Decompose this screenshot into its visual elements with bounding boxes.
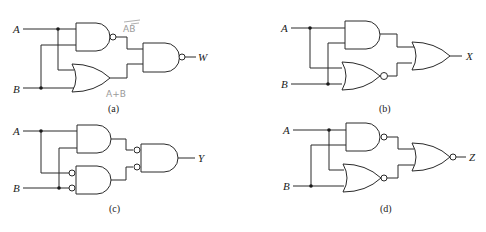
input-b-label: B: [281, 78, 288, 90]
annotation-a-not-b: AB: [123, 24, 135, 34]
caption-d: (d): [380, 203, 392, 215]
caption-b: (b): [379, 103, 391, 115]
logic-diagrams: A B W AB A+B (a) A B: [0, 0, 486, 232]
nor-gate-output: [412, 143, 450, 171]
or-gate-output: [412, 42, 450, 70]
circuit-c: A B Y (c): [12, 125, 206, 215]
circuit-d: A B Z (d): [282, 123, 476, 215]
and-gate: [345, 21, 380, 49]
inversion-bubble: [134, 147, 140, 153]
inversion-bubble: [69, 185, 75, 191]
caption-a: (a): [108, 103, 119, 115]
input-a-label: A: [12, 23, 20, 35]
inversion-bubble: [381, 175, 387, 181]
output-label: X: [465, 50, 474, 62]
circuit-b: A B X (b): [280, 21, 474, 115]
inversion-bubble: [381, 134, 387, 140]
inversion-bubble: [110, 34, 116, 40]
input-b-label: B: [283, 180, 290, 192]
input-b-label: B: [13, 182, 20, 194]
nand-gate-output: [143, 43, 179, 72]
nand-gate-1: [76, 23, 110, 51]
annotation-a-or-not-b: A+B: [106, 89, 126, 99]
nor-gate: [342, 62, 380, 90]
input-a-label: A: [12, 125, 20, 137]
inversion-bubble: [134, 164, 140, 170]
input-a-label: A: [282, 124, 290, 136]
output-label: Y: [198, 152, 206, 164]
input-a-label: A: [280, 22, 288, 34]
caption-c: (c): [109, 203, 120, 215]
output-label: Z: [469, 151, 476, 163]
or-gate-1: [72, 64, 110, 92]
inversion-bubble: [69, 170, 75, 176]
and-gate-output-inverted-inputs: [141, 144, 178, 172]
inversion-bubble: [450, 154, 456, 160]
nor-gate: [343, 164, 381, 192]
input-b-label: B: [13, 83, 20, 95]
and-gate-2-inverted-inputs: [76, 166, 111, 194]
inversion-bubble: [179, 54, 185, 60]
inversion-bubble: [381, 73, 388, 80]
circuit-a: A B W AB A+B (a): [12, 20, 208, 115]
output-label: W: [198, 51, 208, 63]
and-gate-1: [77, 125, 111, 153]
nand-gate: [346, 123, 380, 151]
